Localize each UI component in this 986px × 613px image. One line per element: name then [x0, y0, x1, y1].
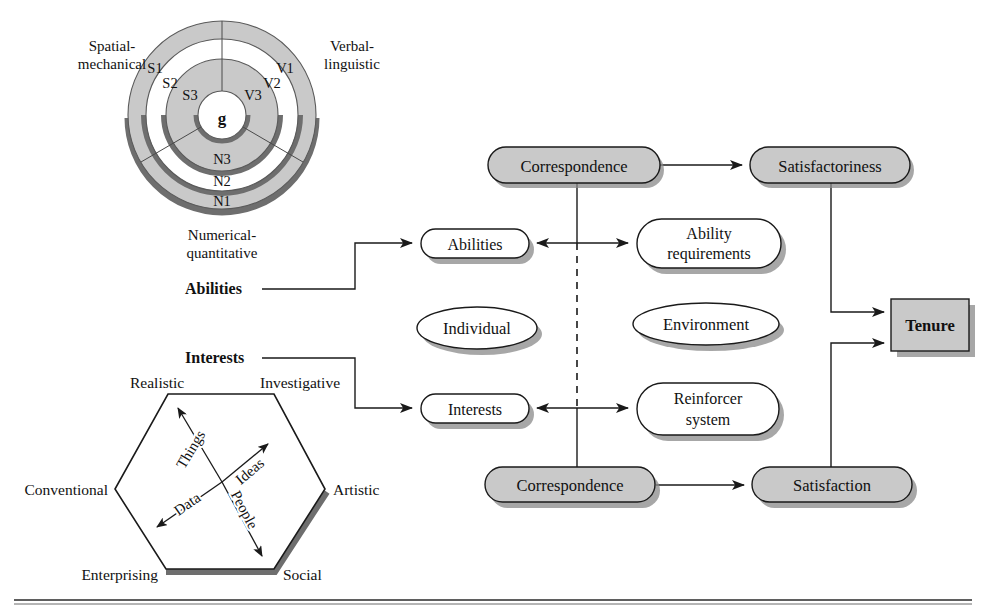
edge-satisfaction-to-tenure [831, 343, 884, 468]
radex-label-n2: N2 [213, 173, 231, 189]
connector-label-abilities: Abilities [185, 280, 242, 297]
node-tenure[interactable]: Tenure [891, 299, 975, 357]
node-satisfactoriness[interactable]: Satisfactoriness [750, 147, 914, 188]
node-label: Correspondence [520, 157, 627, 176]
flow-nodes: Correspondence Satisfactoriness Abilitie… [417, 147, 975, 508]
node-ability-requirements[interactable]: Ability requirements [637, 219, 786, 274]
node-individual[interactable]: Individual [417, 307, 542, 355]
hexagon-vertex-artistic: Artistic [333, 481, 380, 498]
node-label-line2: system [686, 411, 731, 429]
hexagon-vertex-enterprising: Enterprising [81, 566, 158, 583]
figure-canvas: g S1 S2 S3 V1 V2 V3 N1 N2 N3 Spatial- me… [0, 0, 986, 613]
node-label: Tenure [905, 316, 955, 335]
radex-label-s2: S2 [162, 75, 177, 91]
radex-label-v1: V1 [276, 60, 294, 76]
radex-title-verbal-line1: Verbal- [330, 38, 374, 54]
node-reinforcer-system[interactable]: Reinforcer system [637, 383, 784, 441]
bottom-rule [14, 600, 972, 604]
radex-title-spatial-line1: Spatial- [89, 38, 136, 54]
node-abilities[interactable]: Abilities [421, 229, 534, 264]
connector-label-interests: Interests [185, 349, 244, 366]
node-label-line1: Reinforcer [674, 390, 743, 407]
node-environment[interactable]: Environment [633, 303, 784, 351]
hexagon-vertex-realistic: Realistic [130, 374, 184, 391]
hexagon-vertex-conventional: Conventional [24, 481, 108, 498]
node-correspondence-top[interactable]: Correspondence [488, 147, 664, 188]
radex-title-verbal-line2: linguistic [324, 56, 380, 72]
radex-core-label: g [218, 109, 227, 128]
hexagon-vertex-social: Social [283, 566, 322, 583]
node-interests[interactable]: Interests [421, 394, 534, 429]
node-label: Correspondence [516, 476, 623, 495]
radex-title-numerical-line2: quantitative [187, 245, 258, 261]
radex-intelligence-model: g S1 S2 S3 V1 V2 V3 N1 N2 N3 Spatial- me… [78, 21, 380, 261]
radex-title-numerical-line1: Numerical- [188, 227, 256, 243]
radex-label-n1: N1 [213, 193, 231, 209]
node-label: Satisfactoriness [778, 157, 882, 176]
node-label: Interests [448, 401, 502, 418]
edge-satisfactoriness-to-tenure [831, 182, 884, 312]
node-label: Individual [443, 319, 511, 338]
connector-abilities-line [262, 243, 412, 289]
node-label-line2: requirements [667, 245, 751, 263]
node-correspondence-bottom[interactable]: Correspondence [485, 467, 660, 508]
radex-label-s3: S3 [182, 87, 197, 103]
node-label: Satisfaction [793, 476, 871, 495]
holland-riasec-hexagon: Things Ideas Data People Realistic Inves… [24, 374, 379, 583]
node-label-line1: Ability [686, 225, 731, 243]
node-label: Abilities [447, 236, 502, 253]
radex-title-spatial-line2: mechanical [78, 56, 146, 72]
radex-label-s1: S1 [147, 60, 162, 76]
radex-label-v2: V2 [263, 75, 281, 91]
hexagon-vertex-investigative: Investigative [260, 374, 340, 391]
node-satisfaction[interactable]: Satisfaction [752, 467, 917, 508]
radex-label-v3: V3 [244, 87, 262, 103]
node-label: Environment [663, 315, 750, 334]
diagram-svg: g S1 S2 S3 V1 V2 V3 N1 N2 N3 Spatial- me… [0, 0, 986, 613]
radex-label-n3: N3 [213, 151, 231, 167]
